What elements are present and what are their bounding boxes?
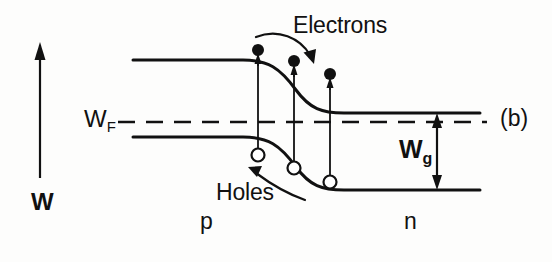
fermi-level-symbol: W xyxy=(84,105,107,132)
hole-carrier-3 xyxy=(324,176,337,189)
electron-flow-arrow xyxy=(256,34,316,64)
energy-band-diagram-figure: Electrons Holes WF Wg W p n (b) xyxy=(0,0,552,262)
fermi-level-subscript: F xyxy=(107,118,116,135)
band-gap-symbol: W xyxy=(399,135,423,163)
electrons-label: Electrons xyxy=(293,14,387,37)
p-region-label: p xyxy=(200,210,213,233)
hole-carrier-2 xyxy=(288,162,301,175)
holes-label: Holes xyxy=(216,181,274,204)
conduction-band-edge xyxy=(133,60,480,113)
panel-label: (b) xyxy=(500,107,528,130)
band-gap-subscript: g xyxy=(423,150,433,167)
n-region-label: n xyxy=(404,210,417,233)
carrier-tie-lines xyxy=(258,62,330,177)
band-gap-label: Wg xyxy=(399,137,432,167)
energy-axis-label: W xyxy=(31,190,54,214)
band-diagram-canvas xyxy=(0,0,552,262)
fermi-level-label: WF xyxy=(84,107,116,134)
energy-axis-arrow xyxy=(35,42,46,178)
hole-carrier-1 xyxy=(252,149,265,162)
electron-carrier-3 xyxy=(324,68,336,90)
band-gap-arrow xyxy=(432,113,442,190)
electron-carrier-2 xyxy=(288,55,300,77)
